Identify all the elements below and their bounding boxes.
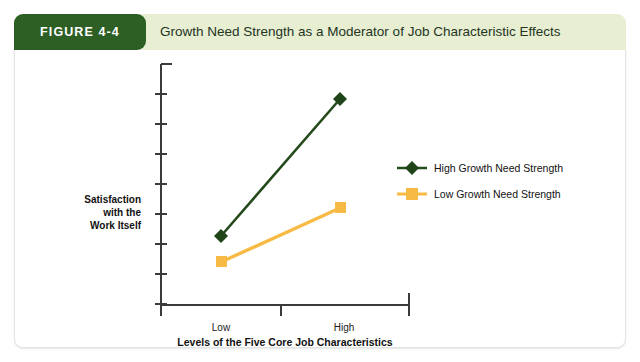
x-tick-label-low: Low — [212, 322, 231, 333]
figure-header: FIGURE 4-4 Growth Need Strength as a Mod… — [14, 14, 626, 50]
figure-title: Growth Need Strength as a Moderator of J… — [160, 14, 560, 50]
y-axis-title: Satisfaction with the Work Itself — [84, 194, 141, 231]
series-low-marker-point-low — [216, 256, 227, 267]
legend-label-high: High Growth Need Strength — [434, 162, 563, 174]
figure-number-label: FIGURE 4-4 — [40, 25, 120, 39]
x-axis-title: Levels of the Five Core Job Characterist… — [177, 336, 392, 348]
figure-body: Satisfaction with the Work Itself Low Hi… — [14, 50, 626, 348]
chart-plot: Satisfaction with the Work Itself Low Hi… — [15, 50, 626, 348]
y-axis-title-line-2: with the — [102, 207, 141, 218]
y-axis-title-line-3: Work Itself — [90, 220, 142, 231]
y-axis-title-line-1: Satisfaction — [84, 194, 141, 205]
legend-marker-square-icon — [406, 188, 418, 200]
legend-marker-diamond-icon — [405, 161, 419, 175]
series-low-marker-point-high — [335, 202, 346, 213]
x-axis — [161, 293, 409, 316]
x-tick-label-high: High — [334, 322, 355, 333]
legend-item-high-growth-need-strength: High Growth Need Strength — [397, 161, 563, 175]
series-low-growth-need-strength — [216, 202, 346, 267]
legend-label-low: Low Growth Need Strength — [434, 188, 561, 200]
chart-legend: High Growth Need Strength Low Growth Nee… — [397, 161, 563, 200]
series-high-growth-need-strength — [214, 92, 347, 243]
figure-number-badge: FIGURE 4-4 — [14, 14, 146, 50]
figure-card: FIGURE 4-4 Growth Need Strength as a Mod… — [14, 14, 626, 348]
page-bleed-text — [0, 0, 640, 13]
legend-item-low-growth-need-strength: Low Growth Need Strength — [397, 188, 561, 200]
y-axis — [155, 64, 172, 306]
